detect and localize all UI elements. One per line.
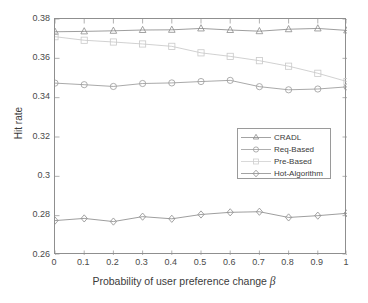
x-axis-title-text: Probability of user preference change [92,275,269,287]
x-tick-label: 0.7 [243,258,273,267]
y-tick-label: 0.34 [10,92,50,101]
series-hot-algorithm [55,208,347,225]
x-tick-label: 0.4 [156,258,186,267]
legend-sample-req-based [241,144,271,155]
legend-label-cradl: CRADL [274,133,301,142]
legend-sample-pre-based [241,156,271,167]
x-tick-label: 0 [39,258,69,267]
x-tick-label: 0.5 [185,258,215,267]
y-tick-label: 0.28 [10,210,50,219]
legend: CRADL Req-Based Pre-Based Hot-Algorithm [237,128,331,179]
x-axis-title: Probability of user preference change β [0,276,368,287]
x-tick-label: 0.6 [214,258,244,267]
legend-label-hot-algorithm: Hot-Algorithm [274,169,323,178]
legend-label-req-based: Req-Based [274,145,314,154]
series-req-based [55,77,347,93]
legend-label-pre-based: Pre-Based [274,157,312,166]
chart-figure: Hit rate Probability of user preference … [0,0,368,303]
x-tick-label: 0.2 [97,258,127,267]
x-tick-label: 1 [331,258,361,267]
series-cradl [55,25,347,35]
y-tick-label: 0.38 [10,14,50,23]
y-tick-label: 0.36 [10,53,50,62]
x-tick-label: 0.8 [273,258,303,267]
x-tick-label: 0.1 [68,258,98,267]
beta-symbol: β [270,275,276,287]
y-tick-label: 0.32 [10,132,50,141]
x-tick-label: 0.9 [302,258,332,267]
legend-item-pre-based[interactable]: Pre-Based [238,156,330,167]
legend-sample-hot-algorithm [241,168,271,179]
legend-item-cradl[interactable]: CRADL [238,132,330,143]
legend-item-req-based[interactable]: Req-Based [238,144,330,155]
x-tick-label: 0.3 [127,258,157,267]
legend-item-hot-algorithm[interactable]: Hot-Algorithm [238,168,330,179]
legend-sample-cradl [241,132,271,143]
series-pre-based [55,34,347,85]
y-tick-label: 0.3 [10,171,50,180]
